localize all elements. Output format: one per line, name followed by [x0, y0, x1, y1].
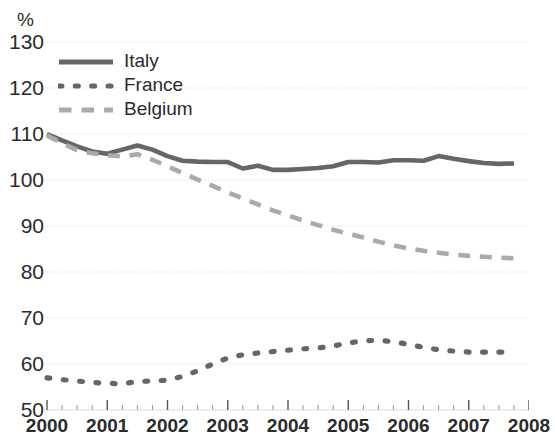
legend-label: France — [124, 75, 183, 94]
data-series-lines — [47, 134, 514, 384]
legend-swatch-france-icon — [58, 78, 114, 90]
chart-legend: ItalyFranceBelgium — [58, 48, 208, 120]
legend-label: Belgium — [124, 99, 193, 118]
series-line-france — [47, 340, 514, 384]
legend-item-belgium[interactable]: Belgium — [58, 96, 208, 120]
legend-swatch-belgium-icon — [58, 102, 114, 114]
legend-item-italy[interactable]: Italy — [58, 48, 208, 72]
legend-item-france[interactable]: France — [58, 72, 208, 96]
legend-label: Italy — [124, 51, 159, 70]
series-line-belgium — [47, 135, 514, 258]
axis-ticks — [47, 400, 529, 410]
series-line-italy — [47, 134, 514, 170]
legend-swatch-italy-icon — [58, 54, 114, 66]
